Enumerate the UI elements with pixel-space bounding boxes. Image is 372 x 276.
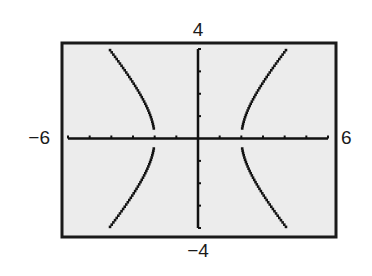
curve-pixel bbox=[255, 91, 258, 94]
curve-pixel bbox=[241, 125, 244, 128]
curve-pixel bbox=[245, 161, 248, 164]
curve-pixel bbox=[242, 154, 245, 157]
curve-pixel bbox=[125, 71, 128, 74]
curve-pixel bbox=[264, 196, 267, 199]
curve-pixel bbox=[112, 221, 115, 224]
curve-pixel bbox=[247, 107, 250, 110]
curve-pixel bbox=[283, 223, 286, 226]
curve-pixel bbox=[253, 96, 256, 99]
plot-area bbox=[0, 0, 372, 276]
curve-pixel bbox=[120, 64, 123, 67]
curve-pixel bbox=[144, 172, 147, 175]
curve-pixel bbox=[265, 199, 268, 202]
curve-pixel bbox=[123, 205, 126, 208]
curve-pixel bbox=[123, 69, 126, 72]
curve-pixel bbox=[275, 212, 278, 215]
curve-pixel bbox=[115, 58, 118, 61]
curve-pixel bbox=[125, 203, 128, 206]
curve-pixel bbox=[119, 212, 122, 215]
curve-pixel bbox=[255, 183, 258, 186]
curve-pixel bbox=[252, 176, 255, 179]
curve-pixel bbox=[147, 165, 150, 168]
curve-pixel bbox=[249, 172, 252, 175]
curve-pixel bbox=[109, 49, 112, 52]
curve-pixel bbox=[148, 163, 151, 166]
curve-pixel bbox=[242, 123, 245, 126]
curve-pixel bbox=[132, 192, 135, 195]
curve-pixel bbox=[110, 51, 113, 54]
curve-pixel bbox=[122, 208, 125, 211]
curve-pixel bbox=[152, 127, 155, 130]
curve-pixel bbox=[248, 105, 251, 108]
curve-pixel bbox=[242, 120, 245, 123]
curve-pixel bbox=[275, 62, 278, 65]
curve-pixel bbox=[139, 94, 142, 97]
curve-pixel bbox=[152, 147, 155, 150]
curve-pixel bbox=[126, 73, 129, 76]
curve-pixel bbox=[254, 94, 257, 97]
curve-pixel bbox=[270, 205, 273, 208]
curve-pixel bbox=[280, 56, 283, 59]
curve-pixel bbox=[112, 53, 115, 56]
curve-pixel bbox=[137, 89, 140, 92]
curve-pixel bbox=[261, 192, 264, 195]
graphing-calculator-plot: 4 −4 −6 6 bbox=[0, 0, 372, 276]
curve-pixel bbox=[280, 219, 283, 222]
curve-pixel bbox=[260, 190, 263, 193]
curve-pixel bbox=[285, 49, 288, 52]
curve-pixel bbox=[109, 226, 112, 229]
curve-pixel bbox=[128, 199, 131, 202]
ymin-label: −4 bbox=[187, 241, 209, 260]
curve-pixel bbox=[152, 125, 155, 128]
curve-pixel bbox=[134, 85, 137, 88]
curve-pixel bbox=[122, 67, 125, 70]
curve-pixel bbox=[138, 91, 141, 94]
curve-pixel bbox=[132, 82, 135, 85]
curve-pixel bbox=[131, 194, 134, 197]
curve-pixel bbox=[249, 103, 252, 106]
curve-pixel bbox=[283, 51, 286, 54]
curve-pixel bbox=[152, 150, 155, 153]
curve-pixel bbox=[254, 181, 257, 184]
curve-pixel bbox=[285, 226, 288, 229]
curve-pixel bbox=[273, 210, 276, 213]
curve-pixel bbox=[270, 69, 273, 72]
curve-pixel bbox=[251, 174, 254, 177]
curve-pixel bbox=[145, 170, 148, 173]
curve-pixel bbox=[137, 185, 140, 188]
curve-pixel bbox=[150, 156, 153, 159]
curve-pixel bbox=[272, 67, 275, 70]
curve-pixel bbox=[276, 214, 279, 217]
curve-pixel bbox=[152, 123, 155, 126]
curve-pixel bbox=[267, 201, 270, 204]
curve-pixel bbox=[115, 217, 118, 220]
curve-pixel bbox=[244, 116, 247, 119]
curve-pixel bbox=[258, 188, 261, 191]
xmin-label: −6 bbox=[28, 128, 50, 147]
curve-pixel bbox=[248, 170, 251, 173]
curve-pixel bbox=[268, 71, 271, 74]
curve-pixel bbox=[241, 147, 244, 150]
curve-pixel bbox=[143, 100, 146, 103]
curve-pixel bbox=[258, 87, 261, 90]
curve-pixel bbox=[272, 208, 275, 211]
curve-pixel bbox=[265, 76, 268, 79]
curve-pixel bbox=[252, 98, 255, 101]
curve-pixel bbox=[243, 118, 246, 121]
curve-pixel bbox=[267, 73, 270, 76]
curve-pixel bbox=[150, 158, 153, 161]
curve-pixel bbox=[152, 152, 155, 155]
curve-pixel bbox=[114, 219, 117, 222]
curve-pixel bbox=[139, 181, 142, 184]
curve-pixel bbox=[251, 100, 254, 103]
curve-pixel bbox=[262, 80, 265, 83]
curve-pixel bbox=[247, 167, 250, 170]
curve-pixel bbox=[261, 82, 264, 85]
curve-pixel bbox=[278, 217, 281, 220]
curve-pixel bbox=[262, 194, 265, 197]
curve-pixel bbox=[268, 203, 271, 206]
curve-pixel bbox=[110, 223, 113, 226]
curve-pixel bbox=[149, 161, 152, 164]
curve-pixel bbox=[120, 210, 123, 213]
curve-pixel bbox=[146, 107, 149, 110]
